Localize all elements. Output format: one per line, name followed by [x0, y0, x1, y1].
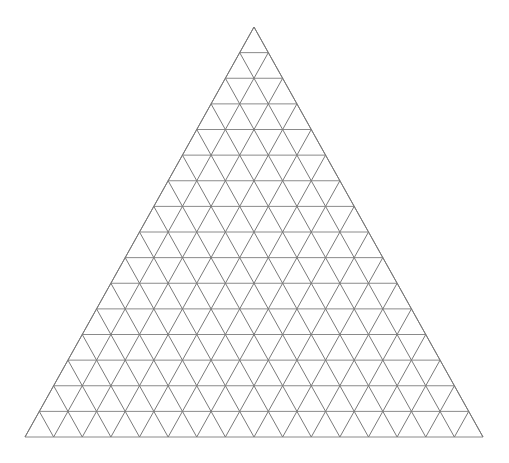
figure-canvas	[0, 0, 509, 463]
triangular-grid-figure	[0, 0, 509, 463]
